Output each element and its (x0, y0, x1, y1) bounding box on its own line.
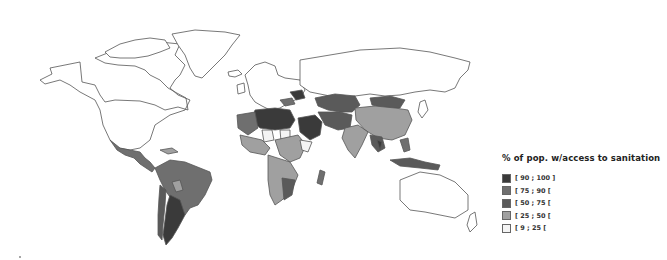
europe (237, 62, 305, 110)
asia (298, 94, 440, 170)
legend-item-9-25: [ 9 ; 25 [ (502, 222, 667, 235)
legend-item-75-90: [ 75 ; 90 [ (502, 185, 667, 198)
south-america (155, 160, 212, 245)
russia (300, 48, 470, 98)
oceania (400, 172, 477, 232)
legend-label: [ 25 ; 50 [ (515, 212, 551, 220)
map-dot (19, 256, 21, 258)
legend-title: % of pop. w/access to sanitation (502, 153, 667, 163)
north-america (40, 30, 242, 150)
legend-swatch (502, 186, 511, 195)
legend-label: [ 75 ; 90 [ (515, 187, 551, 195)
legend-items: [ 90 ; 100 ] [ 75 ; 90 [ [ 50 ; 75 [ [ 2… (502, 172, 667, 235)
legend-item-90-100: [ 90 ; 100 ] (502, 172, 667, 185)
legend-item-25-50: [ 25 ; 50 [ (502, 210, 667, 223)
legend-label: [ 9 ; 25 [ (515, 224, 546, 232)
legend-label: [ 50 ; 75 [ (515, 199, 551, 207)
legend-swatch (502, 224, 511, 233)
legend-swatch (502, 199, 511, 208)
legend-swatch (502, 211, 511, 220)
legend-item-50-75: [ 50 ; 75 [ (502, 197, 667, 210)
legend-swatch (502, 174, 511, 183)
legend: % of pop. w/access to sanitation [ 90 ; … (502, 153, 667, 235)
legend-label: [ 90 ; 100 ] (515, 174, 555, 182)
